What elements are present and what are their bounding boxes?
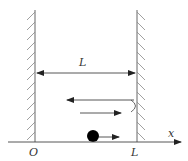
ball: [87, 130, 99, 142]
diagram-canvas: L x O L: [0, 0, 188, 161]
distance-label: L: [78, 56, 86, 69]
left-wall: [27, 10, 35, 142]
origin-label: O: [29, 146, 38, 159]
wall-position-label: L: [130, 146, 138, 159]
right-wall: [137, 10, 145, 142]
reflected-path-arrow: [67, 100, 136, 112]
x-axis-label: x: [168, 127, 175, 140]
